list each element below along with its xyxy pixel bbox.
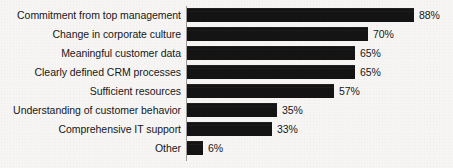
bar-value-label: 35% [282, 101, 303, 120]
bar [187, 103, 277, 117]
category-label: Clearly defined CRM processes [0, 63, 181, 82]
bar [187, 8, 414, 22]
category-label: Comprehensive IT support [0, 120, 181, 139]
bar-row: Sufficient resources 57% [0, 82, 453, 101]
category-label: Change in corporate culture [0, 25, 181, 44]
category-label: Meaningful customer data [0, 44, 181, 63]
category-label: Commitment from top management [0, 6, 181, 25]
bar-value-label: 57% [339, 82, 360, 101]
category-label: Other [0, 139, 181, 158]
bar-row: Commitment from top management 88% [0, 6, 453, 25]
bar-row: Meaningful customer data 65% [0, 44, 453, 63]
bar-chart: Commitment from top management 88% Chang… [0, 0, 453, 168]
bar-value-label: 65% [360, 44, 381, 63]
bar-value-label: 88% [419, 6, 440, 25]
bar-row: Comprehensive IT support 33% [0, 120, 453, 139]
category-label: Sufficient resources [0, 82, 181, 101]
bar-row: Understanding of customer behavior 35% [0, 101, 453, 120]
bar-value-label: 65% [360, 63, 381, 82]
bar-value-label: 6% [208, 139, 223, 158]
bar-row: Other 6% [0, 139, 453, 158]
bar-value-label: 70% [373, 25, 394, 44]
bar [187, 65, 355, 79]
category-axis-line [186, 6, 187, 161]
bar [187, 141, 203, 155]
bar [187, 122, 272, 136]
bar [187, 84, 334, 98]
bar-value-label: 33% [277, 120, 298, 139]
plot-area: Commitment from top management 88% Chang… [0, 0, 453, 168]
bar [187, 27, 368, 41]
bar-row: Clearly defined CRM processes 65% [0, 63, 453, 82]
bar [187, 46, 355, 60]
category-label: Understanding of customer behavior [0, 101, 181, 120]
bar-row: Change in corporate culture 70% [0, 25, 453, 44]
